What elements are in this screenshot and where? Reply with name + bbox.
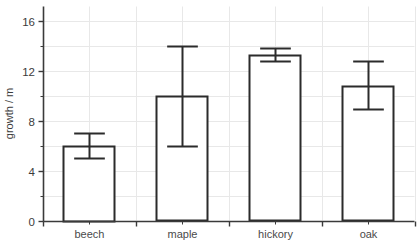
y-tick-label: 8 (29, 116, 35, 128)
bar-group (250, 49, 301, 221)
y-tick-label: 4 (29, 166, 36, 178)
x-category-label: maple (168, 228, 198, 240)
y-axis-ticks: 0481216 (22, 16, 43, 228)
x-category-label: oak (360, 228, 378, 240)
y-tick-label: 0 (29, 216, 35, 228)
x-category-label: hickory (258, 228, 293, 240)
chart-canvas: 0481216beechmaplehickoryoakgrowth / m (0, 0, 420, 248)
bar-chart-figure: 0481216beechmaplehickoryoakgrowth / m (0, 0, 420, 248)
bar-group (64, 134, 115, 222)
y-axis-title: growth / m (3, 88, 15, 139)
x-category-label: beech (75, 228, 105, 240)
y-tick-label: 16 (22, 16, 35, 28)
x-axis-ticks: beechmaplehickoryoak (44, 222, 416, 241)
y-tick-label: 12 (22, 66, 35, 78)
bar (250, 56, 301, 221)
